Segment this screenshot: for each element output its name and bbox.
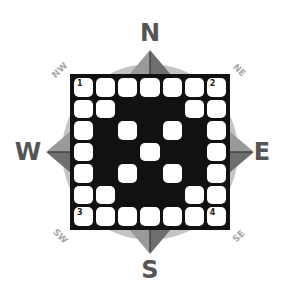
- north-label: N: [135, 21, 165, 45]
- grid-cell[interactable]: [140, 143, 159, 162]
- grid-block: [140, 186, 159, 205]
- clue-number: 1: [77, 79, 83, 88]
- grid-block: [163, 143, 182, 162]
- grid-block: [140, 164, 159, 183]
- grid-cell[interactable]: [74, 164, 93, 183]
- grid-block: [96, 164, 115, 183]
- grid-cell[interactable]: [163, 207, 182, 226]
- west-label: W: [13, 140, 43, 164]
- grid-cell[interactable]: [185, 100, 204, 119]
- grid-block: [163, 100, 182, 119]
- grid-cell[interactable]: [118, 207, 137, 226]
- grid-cell[interactable]: [140, 78, 159, 97]
- grid-cell[interactable]: [207, 186, 226, 205]
- grid-cell[interactable]: [207, 143, 226, 162]
- grid-block: [96, 143, 115, 162]
- grid-cell[interactable]: [118, 164, 137, 183]
- grid-cell[interactable]: [96, 186, 115, 205]
- grid-cell[interactable]: [74, 121, 93, 140]
- grid-cell[interactable]: 1: [74, 78, 93, 97]
- grid-block: [96, 121, 115, 140]
- grid-cell[interactable]: [185, 207, 204, 226]
- grid-block: [118, 100, 137, 119]
- clue-number: 3: [77, 208, 83, 217]
- grid-cell[interactable]: [163, 78, 182, 97]
- grid-cell[interactable]: [207, 100, 226, 119]
- south-arrow-icon: [128, 228, 172, 254]
- clue-number: 2: [210, 79, 216, 88]
- grid-cell[interactable]: [185, 78, 204, 97]
- south-label: S: [135, 258, 165, 282]
- grid-block: [140, 100, 159, 119]
- crossword-grid: 1234: [70, 74, 230, 230]
- grid-block: [185, 164, 204, 183]
- grid-cell[interactable]: [185, 186, 204, 205]
- grid-cell[interactable]: [118, 78, 137, 97]
- grid-cell[interactable]: 4: [207, 207, 226, 226]
- grid-cell[interactable]: [207, 164, 226, 183]
- grid-cell[interactable]: 2: [207, 78, 226, 97]
- clue-number: 4: [210, 208, 216, 217]
- west-arrow-icon: [46, 130, 72, 174]
- grid-cell[interactable]: [74, 186, 93, 205]
- grid-block: [118, 143, 137, 162]
- grid-cell[interactable]: [163, 121, 182, 140]
- grid-cell[interactable]: 3: [74, 207, 93, 226]
- grid-cell[interactable]: [96, 207, 115, 226]
- grid-cell[interactable]: [74, 143, 93, 162]
- grid-block: [163, 186, 182, 205]
- grid-cell[interactable]: [163, 164, 182, 183]
- north-arrow-icon: [128, 50, 172, 76]
- grid-cell[interactable]: [118, 121, 137, 140]
- grid-cell[interactable]: [96, 78, 115, 97]
- grid-cell[interactable]: [74, 100, 93, 119]
- east-label: E: [247, 140, 277, 164]
- grid-block: [118, 186, 137, 205]
- grid-block: [185, 143, 204, 162]
- grid-cell[interactable]: [207, 121, 226, 140]
- grid-block: [185, 121, 204, 140]
- grid-block: [140, 121, 159, 140]
- grid-cell[interactable]: [96, 100, 115, 119]
- grid-cell[interactable]: [140, 207, 159, 226]
